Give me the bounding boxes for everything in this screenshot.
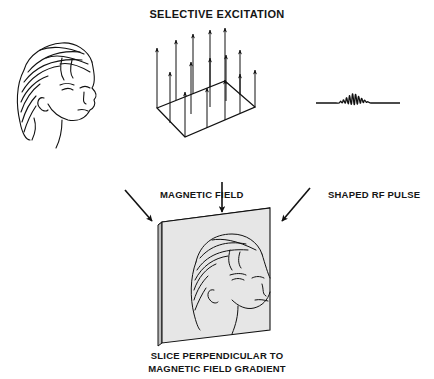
magnetic-field-drawing <box>157 28 255 137</box>
arrow-from-head <box>125 190 152 221</box>
rf-pulse-label: SHAPED RF PULSE <box>328 189 420 200</box>
slice-caption-line2: MAGNETIC FIELD GRADIENT <box>0 362 434 375</box>
slice-slab <box>158 208 270 346</box>
rf-pulse-waveform <box>316 94 400 105</box>
head-drawing <box>17 43 96 148</box>
slice-caption: SLICE PERPENDICULAR TO MAGNETIC FIELD GR… <box>0 349 434 375</box>
arrow-from-pulse <box>282 188 310 221</box>
magnetic-field-label: MAGNETIC FIELD <box>160 189 244 200</box>
slice-caption-line1: SLICE PERPENDICULAR TO <box>0 349 434 362</box>
